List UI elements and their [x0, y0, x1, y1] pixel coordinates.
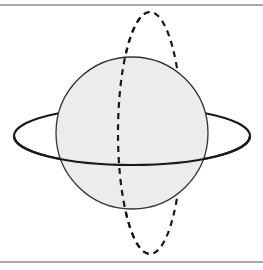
sphere [56, 57, 208, 209]
diagram-canvas [0, 0, 263, 270]
sphere-orbit-diagram [0, 0, 263, 270]
